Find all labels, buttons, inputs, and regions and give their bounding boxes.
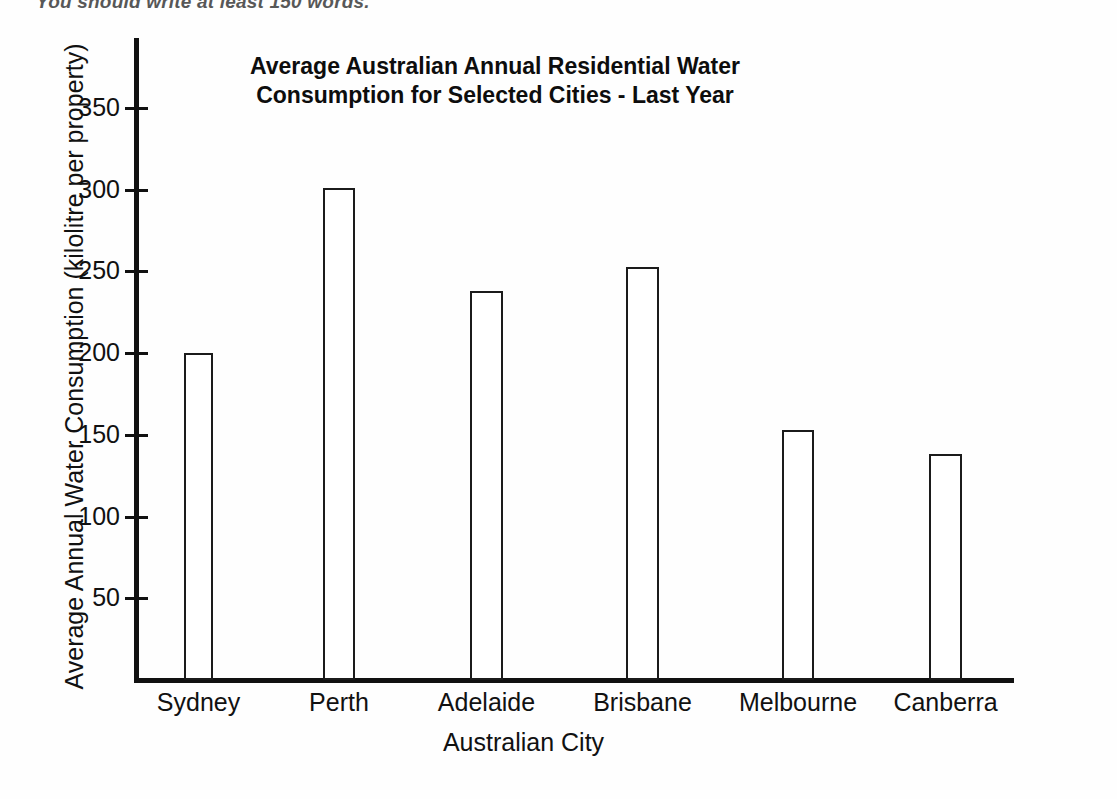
bar-melbourne[interactable] [782,430,814,680]
chart-title-line-1: Average Australian Annual Residential Wa… [215,52,775,81]
y-axis-title-text: Average Annual Water Consumption (kiloli… [60,50,89,690]
x-tick-label-melbourne: Melbourne [739,688,857,717]
y-tick-mark [125,352,148,355]
chart-title: Average Australian Annual Residential Wa… [215,52,775,111]
bar-adelaide[interactable] [470,291,503,680]
x-axis-line [134,678,1014,683]
bar-sydney[interactable] [184,353,213,680]
y-tick-mark [125,189,148,192]
bar-chart: 50100150200250300350 SydneyPerthAdelaide… [0,0,1117,799]
y-axis-title-anchor: Average Annual Water Consumption (kiloli… [34,0,35,1]
y-tick-mark [125,270,148,273]
y-tick-mark [125,434,148,437]
chart-page: You should write at least 150 words. 501… [0,0,1117,799]
x-tick-label-sydney: Sydney [157,688,240,717]
bar-canberra[interactable] [929,454,962,680]
x-tick-label-adelaide: Adelaide [438,688,535,717]
bar-brisbane[interactable] [626,267,659,680]
x-tick-label-perth: Perth [309,688,369,717]
x-axis-title: Australian City [0,728,1117,757]
x-tick-label-canberra: Canberra [893,688,997,717]
y-tick-mark [125,597,148,600]
x-axis-title-text: Australian City [443,728,604,757]
bar-perth[interactable] [323,188,355,680]
y-tick-mark [125,107,148,110]
y-axis-line [134,38,139,683]
chart-title-line-2: Consumption for Selected Cities - Last Y… [215,81,775,110]
y-tick-mark [125,516,148,519]
x-tick-label-brisbane: Brisbane [593,688,692,717]
